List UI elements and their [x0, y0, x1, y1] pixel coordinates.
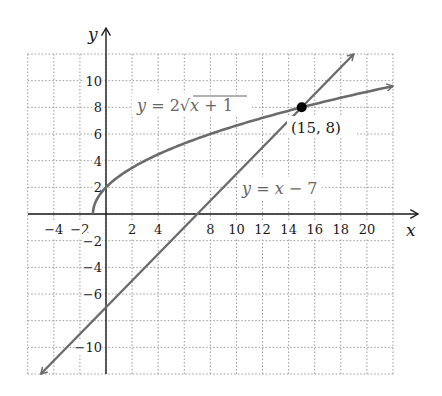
y-tick-label: 10 [85, 74, 102, 89]
x-tick-label: 16 [306, 222, 323, 237]
x-tick-label: 20 [359, 222, 376, 237]
chart: −4−2248101214161820108642−2−4−6−10 x y y… [0, 0, 442, 396]
y-tick-label: −4 [83, 260, 102, 275]
point-label: (15, 8) [287, 116, 357, 138]
svg-text:y = x − 7: y = x − 7 [241, 179, 317, 198]
curve-eq-x: x [190, 96, 199, 115]
x-tick-label: 10 [228, 222, 245, 237]
y-tick-label: 4 [94, 154, 102, 169]
x-tick-label: 8 [206, 222, 214, 237]
curve-eq-mid: = 2 [146, 96, 180, 115]
y-tick-label: −10 [75, 340, 102, 355]
intersection-point [297, 102, 307, 112]
x-tick-label: −4 [44, 222, 63, 237]
line-eq-equals: = [251, 179, 275, 198]
x-tick-label: 12 [254, 222, 271, 237]
y-tick-label: 6 [94, 127, 102, 142]
svg-text:y = 2√x + 1: y = 2√x + 1 [136, 96, 233, 115]
x-tick-label: 14 [280, 222, 297, 237]
y-tick-label: −6 [83, 287, 102, 302]
line-eq-rest: − 7 [284, 179, 318, 198]
x-tick-label: 18 [333, 222, 350, 237]
line-equation-label: y = x − 7 [238, 177, 322, 199]
y-tick-label: −2 [83, 234, 102, 249]
line-eq-x: x [275, 179, 284, 198]
point-label-text: (15, 8) [291, 119, 341, 137]
x-tick-label: 4 [154, 222, 162, 237]
x-tick-label: 2 [128, 222, 136, 237]
curve-eq-rest: + 1 [199, 96, 233, 115]
x-axis-label: x [406, 220, 416, 240]
curve-equation-label: y = 2√x + 1 [132, 93, 252, 117]
y-axis-label: y [87, 24, 98, 44]
y-tick-label: 8 [94, 100, 102, 115]
